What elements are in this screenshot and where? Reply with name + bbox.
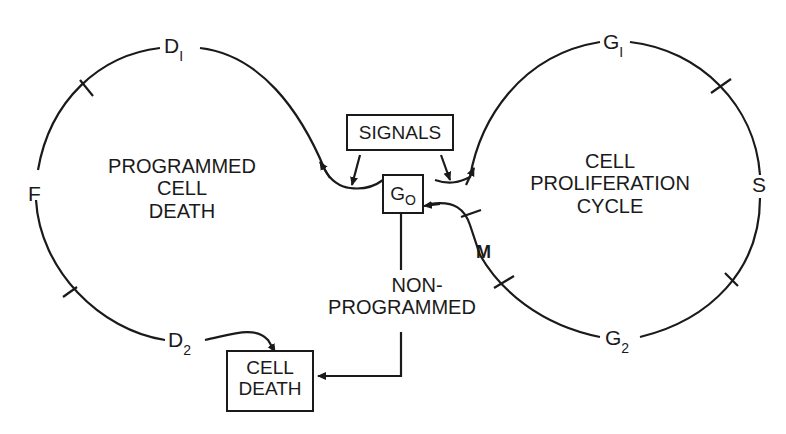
right-cycle-arrowhead [466, 168, 474, 185]
signals-arrow-left [352, 155, 360, 185]
phase-label-f: F [28, 182, 41, 206]
phase-label-d1: DI [164, 34, 183, 58]
title-line: PROLIFERATION [520, 172, 700, 194]
phase-label-g2: G2 [605, 326, 629, 350]
non-programmed-to-cell-death-line [318, 332, 401, 376]
non-programmed-label: NON- PROGRAMMED [322, 274, 482, 319]
left-cycle-arrowhead [320, 162, 330, 178]
title-line: CELL [98, 177, 266, 199]
left-cycle-arc-main [38, 48, 160, 170]
cell-proliferation-cycle-title: CELL PROLIFERATION CYCLE [520, 150, 700, 217]
box-line: DEATH [228, 379, 312, 400]
box-line: CELL [228, 358, 312, 379]
tick-d1-f [80, 80, 93, 96]
label-line: NON- [322, 274, 482, 296]
phase-label-d2: D2 [168, 328, 191, 352]
tick-f-d2 [63, 287, 77, 297]
d2-to-cell-death-arrow [205, 332, 275, 352]
signals-arrow-right [441, 155, 450, 180]
cell-death-box: CELL DEATH [226, 350, 314, 412]
m-to-g0-arrowhead [424, 204, 440, 206]
label-line: PROGRAMMED [322, 296, 482, 318]
programmed-cell-death-title: PROGRAMMED CELL DEATH [98, 155, 266, 222]
phase-label-s: S [752, 173, 766, 197]
title-line: DEATH [98, 200, 266, 222]
signals-box: SIGNALS [346, 114, 454, 151]
title-line: CYCLE [520, 195, 700, 217]
title-line: CELL [520, 150, 700, 172]
right-cycle-arc-s-g2 [640, 198, 760, 337]
phase-label-m: M [476, 242, 491, 262]
g0-box: GO [382, 174, 424, 214]
title-line: PROGRAMMED [98, 155, 266, 177]
phase-label-g1: GI [603, 30, 623, 54]
